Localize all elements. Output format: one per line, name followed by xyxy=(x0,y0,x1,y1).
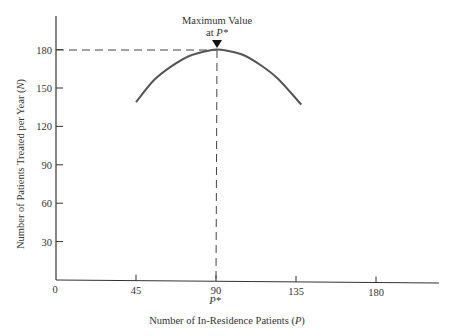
annotation-at-p-star: at P* xyxy=(206,27,229,38)
x-axis xyxy=(56,280,439,283)
x-p-star-label: P* xyxy=(208,295,221,306)
y-tick-label: 30 xyxy=(42,237,53,248)
y-tick-label: 120 xyxy=(36,121,52,132)
x-tick-label: 135 xyxy=(288,286,304,297)
chart-container: 306090120150180 04590135180 Maximum Valu… xyxy=(0,0,453,336)
max-vertical-dashed-line xyxy=(216,50,217,280)
x-tick-label: 45 xyxy=(131,285,142,296)
maximum-marker-triangle-icon xyxy=(212,40,222,48)
y-ticks: 306090120150180 xyxy=(36,45,63,248)
annotation-maximum-value: Maximum Value xyxy=(182,15,252,26)
y-tick-label: 60 xyxy=(42,198,53,209)
data-curve xyxy=(136,50,301,105)
y-axis-label: Number of Patients Treated per Year (N) xyxy=(15,78,27,249)
y-tick-label: 150 xyxy=(36,83,52,94)
x-tick-label: 0 xyxy=(52,284,57,295)
y-tick-label: 180 xyxy=(36,45,52,56)
x-axis-label: Number of In-Residence Patients (P) xyxy=(149,315,305,327)
y-tick-label: 90 xyxy=(42,160,53,171)
chart-svg: 306090120150180 04590135180 Maximum Valu… xyxy=(0,0,453,336)
x-tick-label: 180 xyxy=(368,287,384,298)
